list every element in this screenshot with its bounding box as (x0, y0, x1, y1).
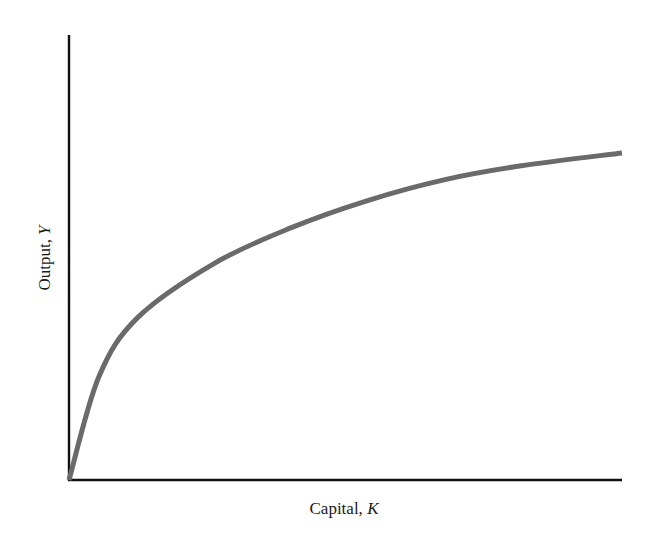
y-axis-label: Output, Y (35, 224, 54, 291)
production-function-chart: Output, Y Capital, K (0, 0, 659, 545)
x-axis-label: Capital, K (310, 499, 381, 518)
production-curve (69, 153, 622, 480)
